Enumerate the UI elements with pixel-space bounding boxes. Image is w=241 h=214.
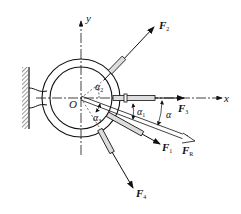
fr-label: FR xyxy=(182,145,193,157)
x-axis-label: x xyxy=(224,93,229,104)
force-f2 xyxy=(81,27,154,98)
origin-label: O xyxy=(69,99,77,110)
axes xyxy=(36,21,222,155)
f4-label: F4 xyxy=(136,188,146,200)
force-f3 xyxy=(113,94,184,102)
alpha2-label: α2 xyxy=(95,82,103,93)
f2-label: F2 xyxy=(159,20,169,32)
wall xyxy=(22,67,29,129)
force-diagram xyxy=(0,0,241,214)
y-axis-label: y xyxy=(86,13,91,24)
alpha3-label: α3 xyxy=(93,113,101,124)
alpha-label: α xyxy=(166,110,171,120)
force-f4 xyxy=(81,98,133,188)
f1-label: F1 xyxy=(162,142,172,154)
f3-label: F3 xyxy=(178,103,188,115)
alpha1-label: α1 xyxy=(137,107,145,118)
